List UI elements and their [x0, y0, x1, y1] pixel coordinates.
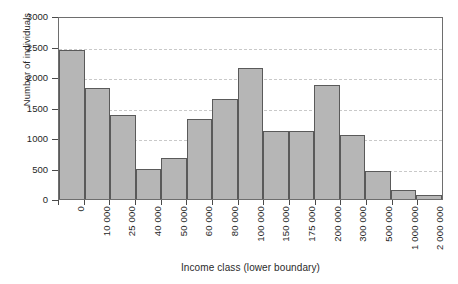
x-axis-tick-label: 300 000	[357, 206, 368, 242]
x-axis-tick-label: 0	[75, 206, 86, 211]
y-axis-tick-label: 1000	[0, 133, 48, 144]
bar	[391, 190, 417, 199]
y-axis-tick-label: 2000	[0, 72, 48, 83]
x-axis-tick	[289, 200, 290, 205]
x-axis-tick	[417, 200, 418, 205]
bar	[85, 88, 111, 199]
y-axis-tick-label: 2500	[0, 42, 48, 53]
bar	[161, 158, 187, 199]
bar	[314, 85, 340, 199]
x-axis-tick	[84, 200, 85, 205]
x-axis-tick	[135, 200, 136, 205]
x-axis-tick	[263, 200, 264, 205]
plot-area	[58, 17, 443, 200]
bar	[289, 131, 315, 199]
x-axis-tick-label: 1 000 000	[409, 206, 420, 250]
bar	[238, 68, 264, 199]
x-axis-tick-label: 50 000	[178, 206, 189, 236]
bar	[365, 171, 391, 199]
x-axis-tick	[58, 200, 59, 205]
x-axis-tick-label: 10 000	[101, 206, 112, 236]
x-axis-tick-label: 80 000	[229, 206, 240, 236]
x-axis-tick	[109, 200, 110, 205]
x-axis-tick	[392, 200, 393, 205]
bar	[263, 131, 289, 199]
histogram-figure: Number of individuals 050010001500200025…	[0, 0, 458, 284]
y-axis-tick-label: 0	[0, 194, 48, 205]
bar	[340, 135, 366, 199]
x-axis-tick-label: 150 000	[280, 206, 291, 242]
x-axis-tick-label: 60 000	[203, 206, 214, 236]
bar	[110, 115, 136, 199]
bar	[136, 169, 162, 199]
x-axis-tick	[186, 200, 187, 205]
x-axis-tick-label: 175 000	[306, 206, 317, 242]
x-axis-tick-label: 40 000	[152, 206, 163, 236]
x-axis-tick	[340, 200, 341, 205]
y-axis-tick	[52, 17, 58, 18]
x-axis-tick-label: 25 000	[126, 206, 137, 236]
y-axis-tick-label: 3000	[0, 11, 48, 22]
bar	[187, 119, 213, 199]
x-axis-tick-label: 100 000	[255, 206, 266, 242]
x-axis-tick-label: 200 000	[332, 206, 343, 242]
x-axis-tick	[366, 200, 367, 205]
y-axis-tick	[52, 109, 58, 110]
x-axis-tick-label: 500 000	[383, 206, 394, 242]
bar	[416, 195, 442, 199]
bar-series	[59, 18, 442, 199]
bar	[212, 99, 238, 199]
x-axis-tick	[212, 200, 213, 205]
x-axis-tick-label: 2 000 000	[434, 206, 445, 250]
x-axis-title: Income class (lower boundary)	[58, 262, 443, 273]
y-axis-tick-label: 1500	[0, 103, 48, 114]
y-axis-tick	[52, 139, 58, 140]
y-axis-tick	[52, 48, 58, 49]
x-axis-tick	[161, 200, 162, 205]
x-axis-tick	[315, 200, 316, 205]
x-axis-tick	[238, 200, 239, 205]
y-axis-tick	[52, 170, 58, 171]
bar	[59, 50, 85, 199]
y-axis-tick-label: 500	[0, 164, 48, 175]
y-axis-tick	[52, 78, 58, 79]
